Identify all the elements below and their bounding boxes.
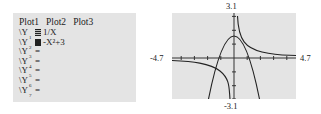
- equation-expression[interactable]: -X²+3: [43, 38, 65, 48]
- ymin-label: -3.1: [224, 101, 237, 111]
- y-equals-editor: Plot1Plot2Plot3 \Y1 1/X \Y2 -X²+3 \Y3 = …: [13, 13, 136, 102]
- equation-expression[interactable]: =: [35, 86, 40, 96]
- plot1-toggle[interactable]: Plot1: [19, 17, 39, 27]
- xmin-label: -4.7: [150, 53, 163, 63]
- graph-screen[interactable]: [172, 13, 296, 99]
- hyperbola-left-branch: [172, 61, 230, 100]
- plot3-toggle[interactable]: Plot3: [73, 17, 93, 27]
- xmax-label: 4.7: [300, 53, 311, 63]
- plot2-toggle[interactable]: Plot2: [46, 17, 66, 27]
- equation-list: \Y1 1/X \Y2 -X²+3 \Y3 = \Y4 = \Y5 = \Y6 …: [19, 28, 65, 95]
- plot-selector-row: Plot1Plot2Plot3: [19, 17, 100, 27]
- equation-name: \Y7: [19, 86, 35, 96]
- selected-equals-icon[interactable]: [35, 39, 41, 46]
- equation-row-y7[interactable]: \Y7 =: [19, 86, 65, 96]
- selected-equals-icon[interactable]: [35, 29, 41, 36]
- graph-plot: [172, 13, 296, 99]
- ymax-label: 3.1: [226, 1, 237, 11]
